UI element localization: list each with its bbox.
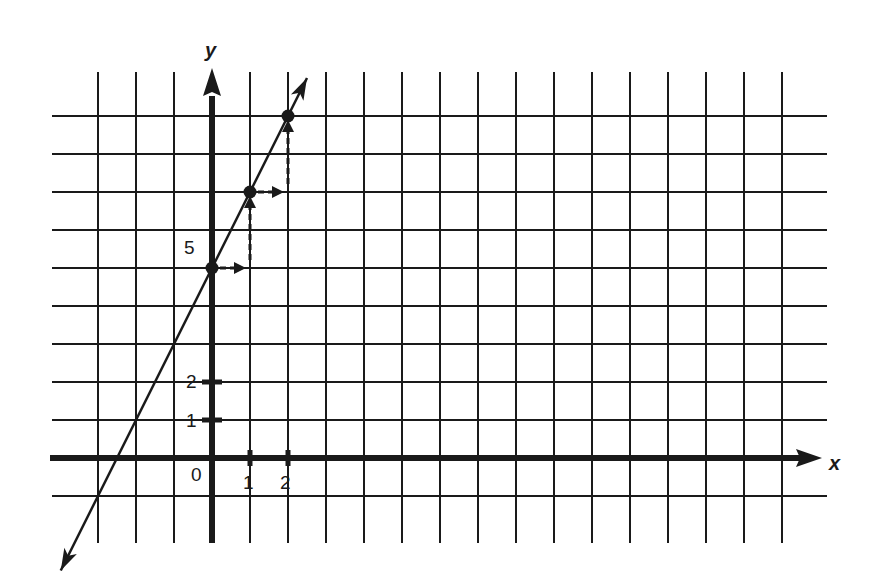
data-point: [244, 186, 257, 199]
x-axis-label: x: [829, 453, 840, 473]
y-tick-label-2: 2: [186, 372, 197, 391]
line-arrow-up-icon: [291, 78, 307, 101]
x-tick-label-1: 1: [243, 473, 254, 492]
data-point: [282, 110, 295, 123]
data-point: [206, 262, 219, 275]
coordinate-plane: [0, 0, 884, 581]
y-tick-label-1: 1: [186, 411, 197, 430]
step-arrows: [220, 120, 294, 274]
grid-lines: [52, 72, 827, 543]
origin-label: 0: [191, 465, 202, 484]
step-arrowhead-icon: [234, 262, 246, 274]
y-axis-label: y: [205, 40, 216, 60]
step-arrowhead-icon: [272, 186, 284, 198]
y-axis-arrow-icon: [203, 68, 221, 96]
y-tick-label-5: 5: [184, 238, 195, 257]
line-arrow-down-icon: [61, 548, 77, 571]
x-tick-label-2: 2: [280, 473, 291, 492]
